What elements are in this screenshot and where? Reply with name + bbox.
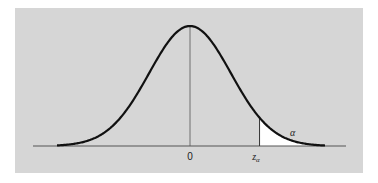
normal-distribution-diagram: 0 zα α [0,0,378,183]
alpha-tail-label: α [290,127,296,138]
figure-background [15,8,363,173]
mean-label: 0 [187,151,193,162]
